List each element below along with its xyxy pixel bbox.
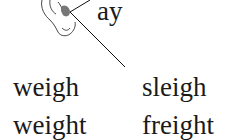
word-weigh: weigh [13,72,79,102]
ear-icon [42,0,76,36]
ear-canal-shading [61,5,70,16]
sound-label: ay [97,0,122,26]
word-weight: weight [13,110,87,140]
word-freight: freight [142,110,214,140]
word-sleigh: sleigh [142,72,207,102]
